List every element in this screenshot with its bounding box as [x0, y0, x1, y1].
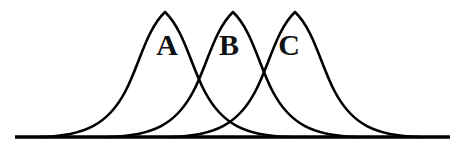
curve-label-b: B: [219, 28, 239, 61]
curves-canvas: A B C: [0, 0, 467, 152]
curve-label-a: A: [156, 28, 178, 61]
curve-label-c: C: [278, 28, 300, 61]
bell-curves-figure: A B C: [0, 0, 467, 152]
